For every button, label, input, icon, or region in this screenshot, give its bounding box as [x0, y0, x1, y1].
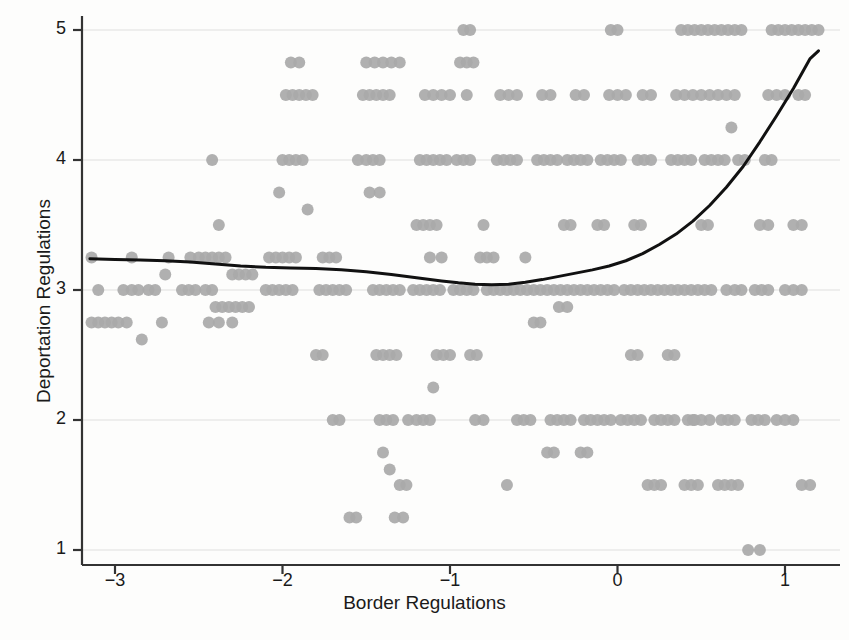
scatter-point [612, 24, 624, 36]
scatter-point [427, 382, 439, 394]
x-tick-label--1: −1 [430, 570, 470, 591]
scatter-point [702, 219, 714, 231]
scatter-point [374, 154, 386, 166]
scatter-point [799, 89, 811, 101]
x-tick-label--2: −2 [263, 570, 303, 591]
scatter-point [787, 414, 799, 426]
scatter-point [796, 284, 808, 296]
scatter-point [424, 252, 436, 264]
scatter-point [478, 414, 490, 426]
scatter-point [159, 268, 171, 280]
scatter-point [467, 57, 479, 69]
scatter-point [246, 268, 258, 280]
scatter-point [501, 479, 513, 491]
scatter-point [581, 154, 593, 166]
scatter-point [121, 317, 133, 329]
scatter-point [687, 414, 699, 426]
scatter-point [488, 252, 500, 264]
scatter-point [735, 284, 747, 296]
scatter-point [397, 512, 409, 524]
scatter-point [384, 89, 396, 101]
scatter-point [732, 479, 744, 491]
scatter-point [766, 154, 778, 166]
scatter-point [685, 154, 697, 166]
scatter-point [655, 479, 667, 491]
scatter-point [92, 284, 104, 296]
scatter-point [400, 479, 412, 491]
scatter-point [668, 414, 680, 426]
scatter-point [444, 89, 456, 101]
scatter-point [668, 349, 680, 361]
x-tick-label--3: −3 [95, 570, 135, 591]
scatter-point [692, 479, 704, 491]
scatter-point [471, 349, 483, 361]
scatter-point [273, 187, 285, 199]
scatter-point [330, 252, 342, 264]
x-tick-label-0: 0 [598, 570, 638, 591]
scatter-point [511, 89, 523, 101]
scatter-point [548, 447, 560, 459]
scatter-point [581, 447, 593, 459]
scatter-point [615, 154, 627, 166]
scatter-point [390, 349, 402, 361]
scatter-point [226, 317, 238, 329]
scatter-point [444, 349, 456, 361]
y-axis-title: Deportation Regulations [33, 131, 55, 471]
scatter-point [287, 284, 299, 296]
scatter-point [206, 284, 218, 296]
scatter-point [534, 317, 546, 329]
scatter-point [759, 414, 771, 426]
scatter-point [206, 154, 218, 166]
x-axis-title: Border Regulations [0, 592, 849, 614]
scatter-point [436, 252, 448, 264]
scatter-point [735, 24, 747, 36]
scatter-point [705, 284, 717, 296]
scatter-point [350, 512, 362, 524]
plot-canvas [0, 0, 849, 640]
scatter-point [424, 414, 436, 426]
scatter-point [519, 252, 531, 264]
scatter-point [297, 154, 309, 166]
scatter-point [387, 414, 399, 426]
lowess-fit-line [90, 51, 819, 285]
scatter-points [86, 24, 825, 556]
scatter-point [632, 349, 644, 361]
scatter-point [434, 284, 446, 296]
scatter-point [302, 203, 314, 215]
y-tick-label-1: 1 [26, 538, 66, 559]
scatter-point [804, 479, 816, 491]
scatter-point [243, 301, 255, 313]
scatter-point [464, 24, 476, 36]
scatter-point [394, 284, 406, 296]
scatter-point [464, 154, 476, 166]
scatter-point [431, 219, 443, 231]
scatter-point [645, 89, 657, 101]
scatter-point [394, 57, 406, 69]
scatter-point [704, 414, 716, 426]
scatter-point [467, 284, 479, 296]
scatter-point [317, 349, 329, 361]
scatter-point [126, 252, 138, 264]
scatter-point [813, 24, 825, 36]
x-tick-label-1: 1 [765, 570, 805, 591]
scatter-point [565, 414, 577, 426]
scatter-point [293, 57, 305, 69]
scatter-point [511, 154, 523, 166]
scatter-point [307, 89, 319, 101]
scatter-point [762, 284, 774, 296]
scatter-point [635, 219, 647, 231]
scatter-point [742, 544, 754, 556]
scatter-point [729, 89, 741, 101]
scatter-point [213, 219, 225, 231]
scatter-plot-figure: −3−2−101 12345 Border Regulations Deport… [0, 0, 849, 640]
scatter-point [524, 414, 536, 426]
scatter-point [545, 89, 557, 101]
scatter-point [92, 317, 104, 329]
scatter-point [796, 219, 808, 231]
scatter-point [762, 219, 774, 231]
scatter-point [156, 317, 168, 329]
scatter-point [478, 219, 490, 231]
scatter-point [565, 219, 577, 231]
fit-line [90, 51, 819, 285]
scatter-point [290, 252, 302, 264]
